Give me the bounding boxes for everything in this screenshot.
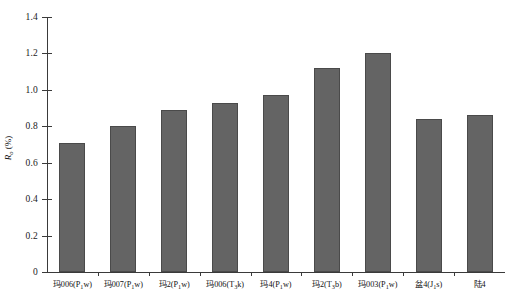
y-tick-label: 1.2: [26, 48, 38, 58]
x-tick-label: 玛003(P1w): [358, 277, 397, 289]
y-tick-label: 1.4: [26, 12, 38, 22]
x-tick-label: 玛2(T3b): [312, 277, 342, 289]
y-tick-label: 0.2: [26, 231, 38, 241]
y-tick-label: 1.0: [26, 85, 38, 95]
x-tick-label: 玛007(P1w): [104, 277, 143, 289]
x-tick: [301, 272, 302, 276]
x-tick: [149, 272, 150, 276]
x-axis-labels: 玛006(P1w)玛007(P1w)玛2(P1w)玛006(T3k)玛4(P1w…: [47, 277, 505, 297]
bar: [161, 110, 187, 272]
y-axis-title: Ro (%): [3, 136, 13, 160]
y-tick-inner: [48, 272, 52, 273]
bar: [416, 119, 442, 272]
x-tick-label: 玛006(P1w): [53, 277, 92, 289]
bar: [110, 126, 136, 272]
x-axis-line: [47, 272, 505, 273]
bar: [467, 115, 493, 272]
y-axis-title-unit: (%): [3, 136, 13, 150]
bar: [314, 68, 340, 272]
x-tick-label: 玛006(T3k): [206, 277, 244, 289]
y-tick-label: 0: [33, 267, 38, 277]
x-tick: [352, 272, 353, 276]
bar: [365, 53, 391, 272]
y-tick: [42, 272, 47, 273]
bar: [263, 95, 289, 272]
x-tick: [251, 272, 252, 276]
x-tick: [454, 272, 455, 276]
x-tick-label: 玛2(P1w): [159, 277, 190, 289]
plot-area: 00.20.40.60.81.01.21.4: [47, 17, 505, 272]
bar: [212, 103, 238, 272]
y-tick-label: 0.6: [26, 158, 38, 168]
x-tick-label: 陆4: [474, 277, 486, 289]
bars-layer: [47, 17, 505, 272]
x-tick: [200, 272, 201, 276]
x-tick-label: 盆4(J1s): [415, 277, 442, 289]
bar-chart: Ro (%) 00.20.40.60.81.01.21.4 玛006(P1w)玛…: [0, 0, 520, 301]
bar: [59, 143, 85, 272]
y-axis-title-main: R: [3, 155, 13, 161]
y-tick-label: 0.8: [26, 121, 38, 131]
x-tick: [403, 272, 404, 276]
x-tick-label: 玛4(P1w): [260, 277, 291, 289]
x-tick: [98, 272, 99, 276]
y-tick-label: 0.4: [26, 194, 38, 204]
